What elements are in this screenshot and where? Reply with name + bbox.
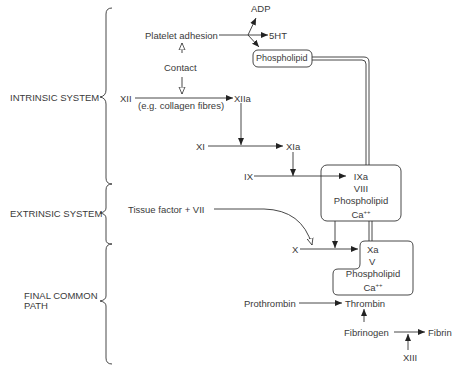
complex-ix-line3: Phospholipid bbox=[321, 195, 401, 206]
node-xiia: XIIa bbox=[234, 93, 251, 104]
node-phospholipid-top: Phospholipid bbox=[256, 53, 308, 64]
complex-ix-line4: Ca++ bbox=[321, 207, 401, 220]
node-5ht: 5HT bbox=[269, 30, 287, 41]
node-ix: IX bbox=[244, 171, 253, 182]
node-thrombin: Thrombin bbox=[345, 298, 385, 309]
node-fibrinogen: Fibrinogen bbox=[344, 327, 389, 338]
node-platelet-adhesion: Platelet adhesion bbox=[145, 30, 218, 41]
label-intrinsic-system: INTRINSIC SYSTEM bbox=[10, 92, 99, 103]
node-tissue-factor: Tissue factor + VII bbox=[128, 204, 204, 215]
node-contact: Contact bbox=[164, 62, 197, 73]
node-x: X bbox=[292, 244, 298, 255]
label-extrinsic-system: EXTRINSIC SYSTEM bbox=[10, 208, 102, 219]
node-prothrombin: Prothrombin bbox=[244, 298, 296, 309]
complex-ix-line2: VIII bbox=[321, 183, 401, 194]
node-xiii: XIII bbox=[403, 352, 417, 363]
node-fibrin: Fibrin bbox=[428, 327, 452, 338]
complex-x-line3: Phospholipid bbox=[333, 268, 413, 279]
brace-final bbox=[100, 244, 112, 364]
label-final-common-2: PATH bbox=[24, 300, 48, 311]
node-xii: XII bbox=[120, 93, 132, 104]
complex-x-line1: Xa bbox=[367, 244, 379, 255]
node-xi: XI bbox=[196, 141, 205, 152]
complex-x-line2: V bbox=[369, 256, 375, 267]
node-adp: ADP bbox=[251, 3, 271, 14]
node-collagen-note: (e.g. collagen fibres) bbox=[138, 100, 224, 111]
complex-ix-line1: IXa bbox=[321, 171, 401, 182]
brace-intrinsic bbox=[100, 8, 112, 184]
complex-x-line4: Ca++ bbox=[333, 280, 413, 293]
node-xia: XIa bbox=[286, 141, 300, 152]
